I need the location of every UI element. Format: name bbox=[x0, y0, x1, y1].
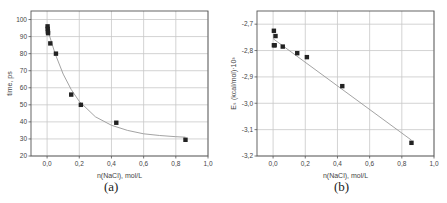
y-tick-label: 20 bbox=[20, 152, 28, 159]
data-point bbox=[409, 141, 413, 145]
data-point bbox=[295, 51, 299, 55]
y-tick-label: -2,9 bbox=[242, 73, 254, 80]
data-point bbox=[340, 84, 344, 88]
y-tick-label: -3,2 bbox=[242, 152, 254, 159]
x-tick-label: 0,2 bbox=[75, 160, 84, 167]
y-tick-label: -2,7 bbox=[242, 20, 254, 27]
data-point bbox=[272, 29, 276, 33]
data-point bbox=[48, 41, 52, 45]
y-tick-label: -3,0 bbox=[242, 100, 254, 107]
y-tick-label: 30 bbox=[20, 135, 28, 142]
y-axis-label: time, ps bbox=[6, 71, 14, 96]
x-tick-label: 0,0 bbox=[269, 160, 278, 167]
data-point bbox=[281, 44, 285, 48]
data-point bbox=[54, 51, 58, 55]
plot-frame bbox=[257, 11, 434, 156]
x-tick-label: 1,0 bbox=[429, 160, 438, 167]
x-tick-label: 0,0 bbox=[43, 160, 52, 167]
data-point bbox=[273, 43, 277, 47]
x-tick-label: 1,0 bbox=[203, 160, 212, 167]
y-tick-label: -3,1 bbox=[242, 126, 254, 133]
y-tick-label: 80 bbox=[20, 50, 28, 57]
x-tick-label: 0,6 bbox=[365, 160, 374, 167]
data-point bbox=[273, 34, 277, 38]
y-tick-label: 70 bbox=[20, 67, 28, 74]
x-tick-label: 0,8 bbox=[397, 160, 406, 167]
y-tick-label: 60 bbox=[20, 84, 28, 91]
data-point bbox=[46, 31, 50, 35]
caption-b: (b) bbox=[334, 179, 349, 195]
data-point bbox=[183, 138, 187, 142]
plot-frame bbox=[31, 11, 208, 156]
chart-b-plot: 0,00,20,40,60,81,0-2,7-2,8-2,9-3,0-3,1-3… bbox=[224, 0, 447, 203]
chart-panel-a: 0,00,20,40,60,81,02030405060708090100n(N… bbox=[0, 0, 223, 203]
y-tick-label: 100 bbox=[16, 16, 27, 23]
x-tick-label: 0,4 bbox=[107, 160, 116, 167]
x-tick-label: 0,4 bbox=[333, 160, 342, 167]
x-tick-label: 0,8 bbox=[171, 160, 180, 167]
data-point bbox=[79, 103, 83, 107]
caption-a: (a) bbox=[104, 179, 118, 195]
chart-a-plot: 0,00,20,40,60,81,02030405060708090100n(N… bbox=[0, 0, 223, 203]
y-tick-label: 90 bbox=[20, 33, 28, 40]
y-axis-label: Eₛ (kcal/mol)·10³ bbox=[230, 57, 238, 110]
y-tick-label: -2,8 bbox=[242, 47, 254, 54]
chart-panel-b: 0,00,20,40,60,81,0-2,7-2,8-2,9-3,0-3,1-3… bbox=[224, 0, 447, 203]
data-point bbox=[114, 121, 118, 125]
data-point bbox=[305, 55, 309, 59]
data-point bbox=[69, 92, 73, 96]
x-tick-label: 0,6 bbox=[139, 160, 148, 167]
x-tick-label: 0,2 bbox=[301, 160, 310, 167]
y-tick-label: 40 bbox=[20, 118, 28, 125]
fit-line bbox=[273, 39, 411, 141]
y-tick-label: 50 bbox=[20, 101, 28, 108]
